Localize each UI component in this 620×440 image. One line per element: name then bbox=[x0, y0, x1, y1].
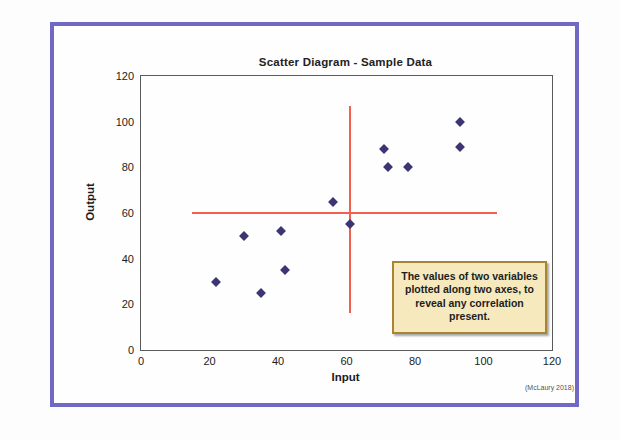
data-point-marker bbox=[276, 226, 286, 236]
attribution-text: (McLaury 2018) bbox=[454, 384, 574, 391]
data-point-marker bbox=[239, 231, 249, 241]
x-axis-tick: 100 bbox=[474, 355, 492, 367]
x-axis-tick: 0 bbox=[138, 355, 144, 367]
y-axis-tick: 60 bbox=[122, 207, 134, 219]
definition-callout: The values of two variables plotted alon… bbox=[392, 261, 547, 334]
figure-root: FIGURE 8.12 Scatter Diagram - Sample Dat… bbox=[0, 0, 620, 440]
reference-line-vertical bbox=[349, 106, 351, 314]
x-axis-tick: 20 bbox=[203, 355, 215, 367]
y-axis-tick: 0 bbox=[128, 344, 134, 356]
x-axis-tick: 80 bbox=[409, 355, 421, 367]
y-axis-tick: 20 bbox=[122, 298, 134, 310]
y-axis-tick: 120 bbox=[116, 70, 134, 82]
data-point-marker bbox=[280, 265, 290, 275]
data-point-marker bbox=[345, 219, 355, 229]
data-point-marker bbox=[455, 117, 465, 127]
figure-frame: Scatter Diagram - Sample Data Output Inp… bbox=[50, 22, 579, 407]
scatter-chart: Scatter Diagram - Sample Data Output Inp… bbox=[54, 26, 583, 411]
y-axis-tick: 80 bbox=[122, 161, 134, 173]
data-point-marker bbox=[256, 288, 266, 298]
x-axis-tick: 60 bbox=[340, 355, 352, 367]
chart-title: Scatter Diagram - Sample Data bbox=[140, 56, 551, 68]
y-axis-tick: 100 bbox=[116, 116, 134, 128]
x-axis-tick: 120 bbox=[543, 355, 561, 367]
x-axis-label: Input bbox=[140, 371, 551, 383]
reference-line-horizontal bbox=[192, 212, 497, 214]
data-point-marker bbox=[379, 144, 389, 154]
y-axis-label: Output bbox=[84, 162, 96, 242]
data-point-marker bbox=[455, 142, 465, 152]
y-axis-tick: 40 bbox=[122, 253, 134, 265]
data-point-marker bbox=[328, 197, 338, 207]
data-point-marker bbox=[211, 277, 221, 287]
data-point-marker bbox=[383, 162, 393, 172]
data-point-marker bbox=[403, 162, 413, 172]
x-axis-tick: 40 bbox=[272, 355, 284, 367]
